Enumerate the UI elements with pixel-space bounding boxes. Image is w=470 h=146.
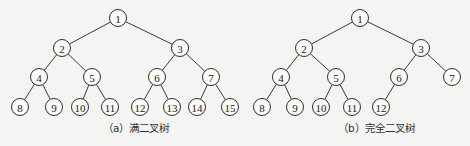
- svg-text:5: 5: [89, 72, 95, 84]
- svg-text:9: 9: [51, 102, 57, 114]
- tree-node-4: 4: [31, 69, 48, 86]
- tree-node-4: 4: [273, 69, 290, 86]
- tree-node-2: 2: [296, 40, 313, 57]
- tree-node-8: 8: [254, 99, 271, 116]
- svg-text:8: 8: [259, 102, 265, 114]
- tree-node-6: 6: [391, 69, 408, 86]
- svg-text:3: 3: [418, 43, 424, 55]
- svg-text:10: 10: [75, 102, 87, 114]
- svg-text:11: 11: [105, 102, 116, 114]
- tree-edge: [44, 55, 56, 71]
- caption-complete-binary-tree: （b）完全二叉树: [338, 120, 415, 135]
- svg-text:1: 1: [357, 13, 363, 25]
- tree-node-7: 7: [203, 69, 220, 86]
- svg-text:12: 12: [135, 102, 146, 114]
- svg-text:15: 15: [225, 102, 237, 114]
- svg-text:12: 12: [376, 102, 387, 114]
- tree-edge: [186, 54, 205, 71]
- svg-text:4: 4: [278, 72, 284, 84]
- tree-edge: [216, 84, 226, 100]
- tree-edge: [267, 84, 277, 100]
- tree-node-5: 5: [84, 69, 101, 86]
- tree-node-9: 9: [287, 99, 304, 116]
- tree-edge: [285, 85, 292, 100]
- binary-tree-figure: 123456789101112131415123456789101112 （a）…: [0, 0, 470, 146]
- tree-edge: [310, 54, 329, 72]
- tree-node-5: 5: [328, 69, 345, 86]
- tree-node-3: 3: [172, 40, 189, 57]
- tree-edge: [83, 85, 89, 99]
- tree-edge: [340, 85, 348, 100]
- tree-node-6: 6: [149, 69, 166, 86]
- tree-edge: [385, 84, 394, 99]
- svg-text:5: 5: [333, 72, 339, 84]
- tree-node-10: 10: [313, 99, 330, 116]
- svg-text:6: 6: [396, 72, 402, 84]
- tree-node-10: 10: [72, 99, 89, 116]
- tree-edge: [201, 85, 208, 100]
- tree-node-2: 2: [54, 40, 71, 57]
- tree-edge: [43, 85, 50, 100]
- tree-edge: [96, 84, 105, 99]
- svg-text:4: 4: [36, 72, 42, 84]
- svg-text:1: 1: [115, 13, 121, 25]
- tree-node-13: 13: [164, 99, 181, 116]
- full-binary-tree: 123456789101112131415: [12, 10, 239, 116]
- caption-full-binary-tree: （a）满二叉树: [103, 120, 169, 135]
- tree-edge: [162, 55, 174, 71]
- tree-edge: [68, 54, 86, 71]
- svg-text:7: 7: [449, 72, 455, 84]
- tree-edge: [25, 84, 35, 100]
- svg-text:13: 13: [167, 102, 179, 114]
- tree-edge: [368, 22, 414, 44]
- tree-node-8: 8: [12, 99, 29, 116]
- svg-text:11: 11: [347, 102, 358, 114]
- tree-node-15: 15: [222, 99, 239, 116]
- tree-node-9: 9: [46, 99, 63, 116]
- tree-edge: [286, 55, 298, 71]
- tree-node-11: 11: [102, 99, 119, 116]
- tree-node-7: 7: [444, 69, 461, 86]
- svg-text:7: 7: [208, 72, 214, 84]
- tree-node-14: 14: [189, 99, 206, 116]
- svg-text:9: 9: [292, 102, 298, 114]
- tree-edge: [69, 22, 110, 44]
- tree-edge: [325, 85, 332, 100]
- svg-text:6: 6: [154, 72, 160, 84]
- complete-binary-tree: 123456789101112: [254, 10, 461, 116]
- tree-node-1: 1: [110, 10, 127, 27]
- svg-text:2: 2: [59, 43, 65, 55]
- tree-edge: [404, 55, 416, 70]
- svg-text:10: 10: [316, 102, 328, 114]
- tree-node-12: 12: [373, 99, 390, 116]
- tree-node-1: 1: [352, 10, 369, 27]
- svg-text:3: 3: [177, 43, 183, 55]
- svg-text:8: 8: [17, 102, 23, 114]
- tree-edge: [427, 54, 446, 71]
- svg-text:14: 14: [192, 102, 204, 114]
- tree-node-3: 3: [413, 40, 430, 57]
- tree-edge: [144, 84, 153, 99]
- tree-edge: [126, 22, 173, 45]
- tree-edge: [311, 22, 352, 44]
- tree-node-12: 12: [132, 99, 149, 116]
- tree-node-11: 11: [344, 99, 361, 116]
- tree-edge: [161, 85, 168, 100]
- svg-text:2: 2: [301, 43, 307, 55]
